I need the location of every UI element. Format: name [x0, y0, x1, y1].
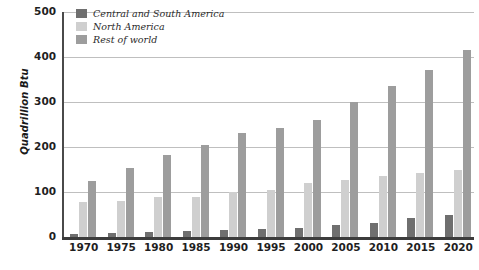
y-axis-line	[62, 12, 64, 237]
bar-group	[295, 12, 322, 237]
x-axis-line	[62, 237, 474, 240]
bar-group	[370, 12, 397, 237]
bar	[117, 201, 125, 237]
legend-item: Rest of world	[76, 34, 224, 45]
bar	[304, 183, 312, 237]
bar	[407, 218, 415, 237]
bar	[425, 70, 433, 237]
legend-label: North America	[93, 21, 165, 32]
bar	[79, 202, 87, 237]
bar	[88, 181, 96, 237]
bar	[379, 176, 387, 237]
bar	[370, 223, 378, 237]
bar-group	[258, 12, 285, 237]
bar	[454, 170, 462, 237]
bar	[258, 229, 266, 237]
bar-group	[445, 12, 472, 237]
bar	[238, 133, 246, 237]
legend-item: North America	[76, 21, 224, 32]
bar	[350, 102, 358, 237]
bar	[154, 197, 162, 238]
legend-label: Rest of world	[93, 34, 157, 45]
bar	[126, 168, 134, 237]
bar	[295, 228, 303, 237]
bar	[163, 155, 171, 237]
bar	[416, 173, 424, 237]
y-tick-label: 0	[14, 230, 56, 242]
bar	[445, 215, 453, 237]
y-tick-label: 300	[14, 95, 56, 107]
bar	[220, 230, 228, 237]
bar-group	[332, 12, 359, 237]
legend-item: Central and South America	[76, 8, 224, 19]
bar-group	[407, 12, 434, 237]
legend-swatch	[76, 35, 87, 44]
bar	[388, 86, 396, 237]
bar	[276, 128, 284, 237]
bar	[201, 145, 209, 237]
y-tick-label: 400	[14, 50, 56, 62]
bar	[229, 192, 237, 237]
legend-label: Central and South America	[93, 8, 224, 19]
bar	[341, 180, 349, 237]
y-tick-label: 500	[14, 5, 56, 17]
chart-legend: Central and South AmericaNorth AmericaRe…	[76, 8, 224, 47]
legend-swatch	[76, 22, 87, 31]
bar	[313, 120, 321, 237]
bar	[332, 225, 340, 237]
bar	[463, 50, 471, 237]
bar	[267, 190, 275, 237]
y-tick-label: 100	[14, 185, 56, 197]
bar	[192, 197, 200, 237]
legend-swatch	[76, 9, 87, 18]
bar-chart: Quadrillion Btu 0100200300400500 1970197…	[0, 0, 479, 270]
y-tick-label: 200	[14, 140, 56, 152]
x-tick-label: 2020	[428, 241, 479, 253]
